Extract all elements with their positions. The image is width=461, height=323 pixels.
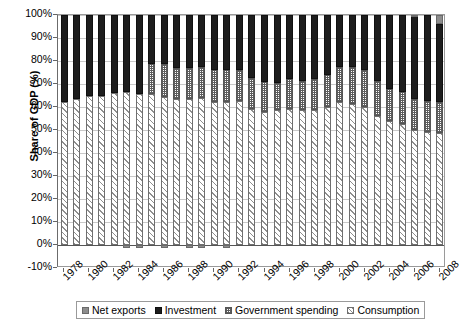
y-axis-tick-label: 30% <box>2 169 52 179</box>
bar-column <box>123 15 130 267</box>
bar-segment-investment <box>299 15 306 81</box>
bar-segment-consumption <box>374 116 381 245</box>
bar-column <box>386 15 393 267</box>
bar-segment-consumption <box>236 101 243 245</box>
bar-segment-govt <box>286 79 293 109</box>
legend-swatch-govt-icon <box>225 307 232 314</box>
bar-segment-consumption <box>248 109 255 245</box>
bar-segment-netexports <box>436 15 443 24</box>
legend-item-investment[interactable]: Investment <box>155 304 216 316</box>
legend-swatch-investment-icon <box>155 307 162 314</box>
bar-column <box>173 15 180 267</box>
bar-segment-investment <box>198 15 205 67</box>
bar-column <box>361 15 368 267</box>
bar-segment-consumption <box>349 104 356 245</box>
bar-segment-netexports <box>411 15 418 17</box>
bar-segment-investment <box>324 15 331 75</box>
y-axis-tick-label: 0% <box>2 238 52 248</box>
bar-segment-investment <box>236 15 243 70</box>
bar-column <box>161 15 168 267</box>
bar-segment-govt <box>436 102 443 133</box>
bar-segment-govt <box>223 70 230 102</box>
bar-column <box>336 15 343 267</box>
bar-segment-investment <box>274 15 281 83</box>
bar-segment-govt <box>186 68 193 99</box>
bar-column <box>261 15 268 267</box>
bar-segment-govt <box>274 83 281 111</box>
bar-column <box>411 15 418 267</box>
bar-segment-govt <box>248 78 255 109</box>
bar-column <box>399 15 406 267</box>
bar-segment-govt <box>299 81 306 111</box>
bar-segment-investment <box>98 15 105 96</box>
legend-item-govt[interactable]: Government spending <box>225 304 338 316</box>
bar-segment-investment <box>336 15 343 67</box>
bar-column <box>211 15 218 267</box>
bar-segment-investment <box>411 16 418 99</box>
legend-item-consumption[interactable]: Consumption <box>347 304 419 316</box>
bar-segment-consumption <box>123 92 130 245</box>
bar-segment-consumption <box>336 102 343 245</box>
bar-segment-investment <box>161 15 168 64</box>
bar-segment-consumption <box>286 109 293 245</box>
bar-segment-govt <box>198 67 205 98</box>
bar-segment-investment <box>173 15 180 68</box>
bar-column <box>424 15 431 267</box>
bar-segment-govt <box>173 68 180 99</box>
bar-segment-investment <box>61 15 68 102</box>
y-axis-tick-label: 70% <box>2 77 52 87</box>
bar-segment-consumption <box>386 121 393 245</box>
bar-segment-investment <box>211 15 218 70</box>
bar-segment-consumption <box>61 102 68 245</box>
bar-segment-consumption <box>186 99 193 245</box>
bar-segment-govt <box>148 64 155 94</box>
chart-legend: Net exportsInvestmentGovernment spending… <box>76 301 425 319</box>
bar-segment-consumption <box>436 133 443 245</box>
bar-segment-investment <box>86 15 93 96</box>
bar-segment-govt <box>311 79 318 110</box>
legend-item-netexports[interactable]: Net exports <box>82 304 146 316</box>
bar-column <box>61 15 68 267</box>
bar-segment-investment <box>349 15 356 67</box>
bar-segment-investment <box>248 15 255 78</box>
legend-swatch-netexports-icon <box>82 307 89 314</box>
bar-segment-consumption <box>161 97 168 245</box>
bar-column <box>286 15 293 267</box>
bar-column <box>311 15 318 267</box>
bar-segment-govt <box>236 70 243 101</box>
bar-segment-consumption <box>111 93 118 245</box>
bar-column <box>236 15 243 267</box>
bar-column <box>436 15 443 267</box>
bar-segment-govt <box>336 67 343 103</box>
y-axis-tick-label: 40% <box>2 146 52 156</box>
bar-segment-govt <box>261 82 268 112</box>
legend-label: Net exports <box>92 304 146 316</box>
bar-segment-govt <box>374 81 381 117</box>
bar-segment-consumption <box>274 110 281 245</box>
plot-area <box>57 14 445 267</box>
bar-column <box>324 15 331 267</box>
bar-segment-netexports-negative <box>198 245 205 248</box>
bar-segment-govt <box>211 70 218 102</box>
bar-segment-govt <box>386 89 393 121</box>
bar-segment-investment <box>386 15 393 89</box>
bar-segment-investment <box>374 15 381 81</box>
bar-segment-consumption <box>424 132 431 245</box>
y-axis-tick-label: 100% <box>2 8 52 18</box>
bar-segment-govt <box>361 70 368 107</box>
bar-segment-govt <box>349 67 356 104</box>
bar-column <box>349 15 356 267</box>
bar-segment-investment <box>136 15 143 94</box>
bar-segment-netexports-negative <box>161 245 168 248</box>
bar-segment-consumption <box>261 112 268 245</box>
bar-segment-investment <box>361 15 368 70</box>
bar-segment-govt <box>411 99 418 130</box>
bar-column <box>136 15 143 267</box>
bar-segment-consumption <box>98 96 105 246</box>
y-axis-tick-label: 60% <box>2 100 52 110</box>
bar-segment-consumption <box>211 102 218 245</box>
bar-column <box>186 15 193 267</box>
bar-segment-consumption <box>311 110 318 245</box>
y-axis-title: Share of GDP (%) <box>28 46 40 186</box>
